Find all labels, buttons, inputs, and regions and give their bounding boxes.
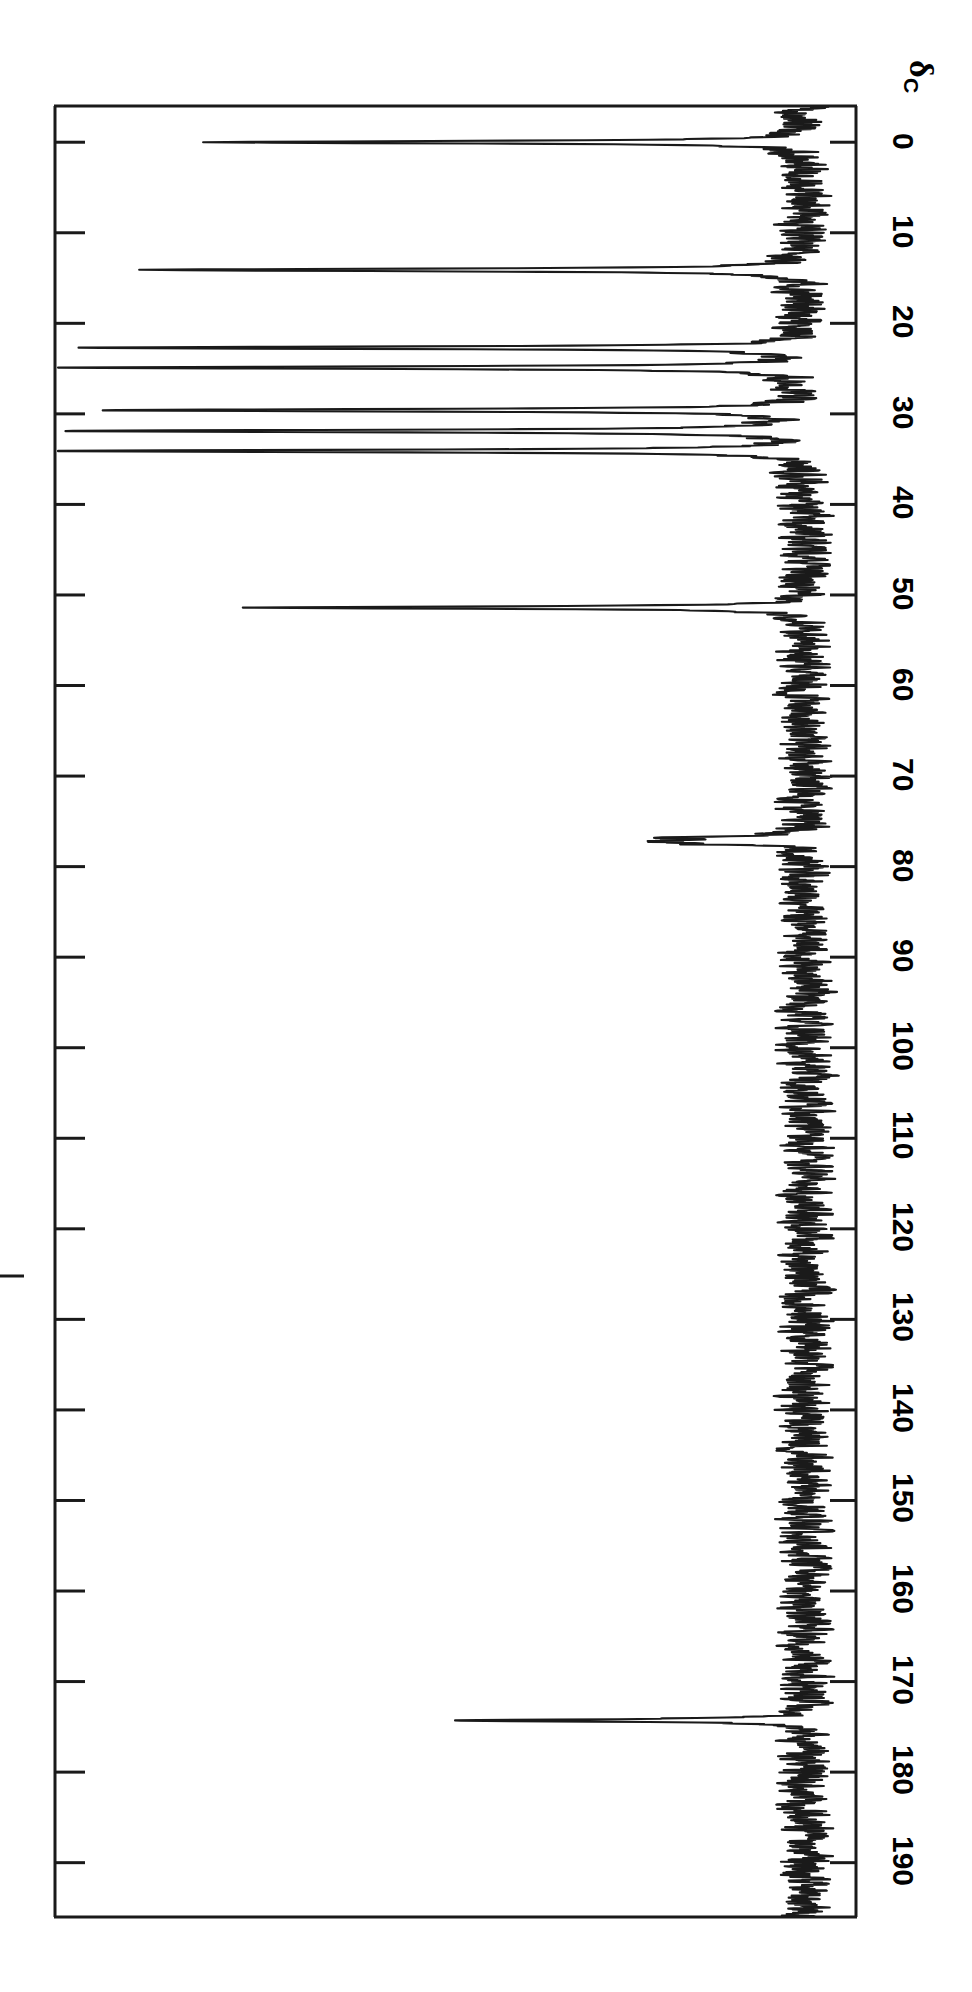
axis-tick-label: 90 bbox=[886, 939, 920, 972]
axis-ticks-left bbox=[55, 142, 85, 1862]
axis-tick-label: 10 bbox=[886, 215, 920, 248]
nmr-spectrum-figure: 0102030405060708090100110120130140150160… bbox=[0, 0, 972, 1992]
spectrum-trace bbox=[58, 106, 839, 1917]
axis-tick-label: 30 bbox=[886, 396, 920, 429]
axis-tick-label: 170 bbox=[886, 1655, 920, 1705]
axis-tick-label: 110 bbox=[886, 1111, 920, 1159]
axis-tick-label: 40 bbox=[886, 486, 920, 519]
axis-tick-label: 150 bbox=[886, 1473, 920, 1523]
axis-tick-label: 180 bbox=[886, 1745, 920, 1795]
axis-tick-label: 190 bbox=[886, 1836, 920, 1886]
axis-title-delta-c: δC bbox=[902, 60, 940, 93]
axis-tick-label: 60 bbox=[886, 668, 920, 701]
axis-ticks-right bbox=[830, 142, 856, 1862]
axis-tick-label: 100 bbox=[886, 1021, 920, 1071]
axis-tick-label: 140 bbox=[886, 1383, 920, 1433]
axis-tick-label: 160 bbox=[886, 1564, 920, 1614]
axis-tick-label: 120 bbox=[886, 1202, 920, 1252]
axis-tick-label: 70 bbox=[886, 758, 920, 791]
spectrum-plot-svg bbox=[0, 0, 972, 1992]
axis-tick-label: 50 bbox=[886, 577, 920, 610]
axis-tick-label: 130 bbox=[886, 1292, 920, 1342]
plot-frame bbox=[54, 106, 857, 1917]
axis-tick-label: 80 bbox=[886, 849, 920, 882]
axis-title-symbol: δ bbox=[903, 60, 940, 78]
axis-title-subscript: C bbox=[900, 78, 923, 93]
axis-tick-label: 20 bbox=[886, 305, 920, 338]
axis-tick-label: 0 bbox=[886, 133, 920, 150]
